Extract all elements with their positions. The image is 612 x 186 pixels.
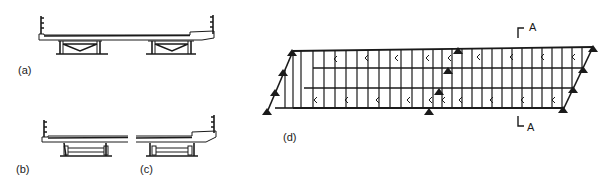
section-marker-bottom: [518, 116, 524, 126]
transverse-members: [285, 47, 582, 108]
girder-pair: [146, 143, 198, 156]
panel-c-label: (c): [140, 163, 153, 175]
section-marker-top: [518, 28, 524, 38]
figure-canvas: (a) (b): [0, 0, 612, 186]
support-triangle: [278, 69, 288, 76]
support-triangle: [558, 106, 568, 113]
parapet-right: [211, 115, 214, 133]
girder-pair: [60, 143, 112, 156]
girder-pair-left: [56, 41, 108, 54]
section-marker-bottom-label: A: [527, 121, 535, 133]
grillage-top-edge: [293, 47, 593, 51]
support-triangle: [270, 89, 280, 96]
parapet-left: [41, 16, 44, 34]
bracing-marks: [314, 54, 575, 103]
panel-c-cross-section: [136, 115, 216, 156]
parapet-left: [44, 120, 47, 137]
panel-b-label: (b): [16, 163, 29, 175]
grillage-left-skew-edge: [268, 51, 293, 110]
panel-a-cross-section: [39, 15, 214, 54]
panel-d-label: (d): [283, 131, 296, 143]
girder-pair-right: [146, 41, 196, 54]
panel-d-grillage: A A: [262, 21, 598, 133]
support-triangle: [424, 108, 434, 115]
deck-slab-right-half: [136, 131, 216, 142]
support-triangle: [588, 45, 598, 52]
panel-a-label: (a): [18, 64, 31, 76]
support-triangle: [578, 66, 588, 73]
support-triangle: [287, 49, 297, 56]
support-triangle: [262, 108, 272, 115]
support-triangle: [568, 86, 578, 93]
section-marker-top-label: A: [529, 21, 537, 33]
panel-b-cross-section: [42, 120, 128, 156]
grillage-right-skew-edge: [563, 47, 593, 110]
